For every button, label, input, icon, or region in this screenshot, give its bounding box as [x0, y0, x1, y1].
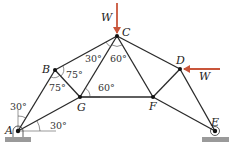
angle-label-g: 60°: [98, 82, 115, 93]
joint-c: [115, 34, 119, 38]
node-label-a: A: [4, 124, 13, 137]
node-label-e: E: [210, 116, 219, 129]
joint-f: [151, 95, 155, 99]
node-label-d: D: [175, 54, 185, 67]
load-label-c: W: [101, 11, 114, 24]
angle-arc-g: [85, 88, 90, 97]
angle-label-c-right: 60°: [110, 53, 127, 64]
joint-e: [213, 129, 217, 133]
truss-diagram: A B C D E F G W W 30° 30° 75° 75° 30° 60…: [0, 0, 236, 149]
ground-a: [5, 137, 31, 142]
joints: [13, 34, 220, 137]
angle-arc-a-horizontal: [37, 121, 40, 131]
node-label-c: C: [122, 26, 131, 39]
node-label-g: G: [77, 101, 86, 114]
joint-b: [53, 68, 57, 72]
angle-label-a-vertical: 30°: [10, 101, 27, 112]
angle-arc-b-upper: [61, 66, 64, 76]
node-label-b: B: [41, 63, 50, 76]
members: [18, 36, 215, 131]
joint-a: [16, 129, 20, 133]
joint-g: [78, 95, 82, 99]
node-label-f: F: [148, 100, 157, 113]
angle-label-b-upper: 75°: [66, 69, 83, 80]
angle-arc-c-right: [112, 45, 122, 46]
angle-label-c-left: 30°: [85, 53, 102, 64]
ground-e: [202, 137, 229, 142]
member-df: [153, 69, 180, 97]
angle-arc-c-left: [106, 42, 111, 47]
angle-label-b-lower: 75°: [49, 82, 66, 93]
angle-label-a-horizontal: 30°: [50, 120, 67, 131]
angle-arc-a-vertical: [18, 116, 26, 118]
member-ag: [18, 97, 80, 131]
load-label-d: W: [199, 70, 212, 83]
joint-d: [178, 67, 182, 71]
